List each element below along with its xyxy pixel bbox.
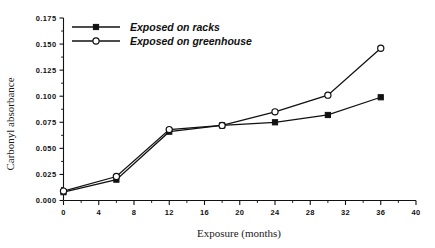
- y-axis-ticks: 0.0000.0250.0500.0750.1000.1250.1500.175: [36, 14, 64, 206]
- series-racks: [61, 95, 383, 195]
- data-point-marker: [219, 122, 225, 128]
- filled-square-marker: [93, 24, 98, 29]
- legend-item: Exposed on greenhouse: [72, 35, 252, 47]
- x-tick-label: 0: [61, 208, 66, 217]
- x-tick-label: 32: [341, 208, 350, 217]
- x-tick-label: 36: [376, 208, 385, 217]
- x-tick-label: 40: [411, 208, 420, 217]
- data-point-marker: [325, 92, 331, 98]
- x-tick-label: 20: [235, 208, 244, 217]
- data-point-marker: [166, 126, 172, 132]
- y-tick-label: 0.175: [36, 14, 57, 23]
- y-tick-label: 0.100: [36, 92, 57, 101]
- x-tick-label: 28: [306, 208, 315, 217]
- x-axis-title: Exposure (months): [197, 227, 281, 240]
- legend-item: Exposed on racks: [72, 21, 220, 33]
- legend-label: Exposed on greenhouse: [130, 35, 252, 47]
- figure-container: 0.0000.0250.0500.0750.1000.1250.1500.175…: [0, 0, 435, 248]
- line-chart: 0.0000.0250.0500.0750.1000.1250.1500.175…: [0, 0, 435, 248]
- x-tick-label: 12: [165, 208, 174, 217]
- y-tick-label: 0.000: [36, 196, 57, 205]
- y-tick-label: 0.125: [36, 66, 57, 75]
- y-tick-label: 0.025: [36, 170, 57, 179]
- open-circle-marker: [93, 38, 99, 44]
- y-tick-label: 0.150: [36, 40, 57, 49]
- y-tick-label: 0.075: [36, 118, 57, 127]
- y-axis-title: Carbonyl absorbance: [4, 77, 16, 170]
- y-tick-label: 0.050: [36, 144, 57, 153]
- series-line: [64, 48, 381, 191]
- chart-legend: Exposed on racksExposed on greenhouse: [72, 21, 252, 47]
- data-point-marker: [272, 120, 277, 125]
- data-point-marker: [378, 95, 383, 100]
- x-tick-label: 16: [200, 208, 209, 217]
- legend-label: Exposed on racks: [130, 21, 220, 33]
- x-tick-label: 24: [270, 208, 280, 217]
- data-point-marker: [60, 188, 66, 194]
- x-tick-label: 8: [132, 208, 137, 217]
- data-point-marker: [272, 109, 278, 115]
- x-axis-ticks: 0481216202428323640: [61, 201, 420, 217]
- data-point-marker: [378, 45, 384, 51]
- data-series-group: [60, 45, 383, 195]
- x-tick-label: 4: [96, 208, 101, 217]
- series-greenhouse: [60, 45, 383, 194]
- data-point-marker: [325, 112, 330, 117]
- data-point-marker: [113, 173, 119, 179]
